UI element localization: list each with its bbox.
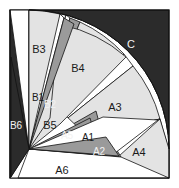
figure-root: C B3 B4 B1 B2 B5 B6 A3 A5 A1 A2 A4 A6 [0,0,179,188]
wedge-partition-diagram: C B3 B4 B1 B2 B5 B6 A3 A5 A1 A2 A4 A6 [0,0,179,188]
